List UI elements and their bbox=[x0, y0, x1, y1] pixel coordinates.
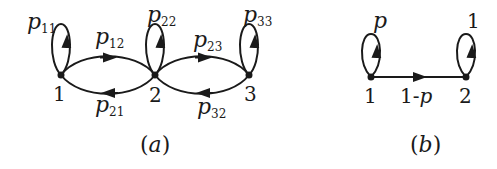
edge-2-to-3 bbox=[155, 56, 249, 75]
node-dot-b-2 bbox=[464, 75, 469, 80]
caption-a: (a) bbox=[140, 132, 170, 157]
node-dot-3 bbox=[247, 73, 252, 78]
node-label-b-1: 1 bbox=[364, 84, 377, 108]
edge-label-2-3: p23 bbox=[193, 27, 222, 54]
node-label-3: 3 bbox=[244, 82, 257, 106]
loop-label-b-1: p bbox=[373, 8, 387, 33]
edge-1-to-2 bbox=[61, 56, 155, 75]
edge-label-3-2: p32 bbox=[197, 94, 226, 121]
edge-label-b-1-2: 1-p bbox=[400, 84, 432, 108]
loop-label-3: p33 bbox=[243, 2, 272, 29]
node-dot-b-1 bbox=[369, 75, 374, 80]
self-loop-b-2 bbox=[457, 34, 475, 77]
markov-chain-figure: p11 p22 p33 p12 p21 p23 p32 1 2 3 (a) p bbox=[0, 0, 497, 169]
caption-b: (b) bbox=[410, 132, 441, 157]
edge-3-to-2 bbox=[155, 75, 249, 94]
node-dot-1 bbox=[59, 73, 64, 78]
edge-label-1-2: p12 bbox=[95, 24, 124, 51]
edge-2-to-1 bbox=[61, 75, 155, 94]
node-label-1: 1 bbox=[53, 82, 66, 106]
labels-b: p 1 1 2 1-p (b) bbox=[364, 8, 480, 157]
loop-label-b-2: 1 bbox=[467, 9, 480, 33]
edge-label-2-1: p21 bbox=[95, 92, 124, 119]
diagram-b bbox=[362, 34, 475, 80]
loop-label-1: p11 bbox=[27, 9, 56, 36]
node-label-b-2: 2 bbox=[459, 84, 472, 108]
self-loop-b-1 bbox=[362, 34, 380, 77]
loop-label-2: p22 bbox=[147, 2, 176, 29]
node-label-2: 2 bbox=[149, 83, 162, 107]
node-dot-2 bbox=[153, 73, 158, 78]
